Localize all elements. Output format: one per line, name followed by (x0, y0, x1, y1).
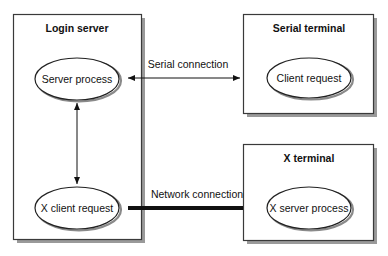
serial-terminal-title: Serial terminal (273, 22, 345, 34)
login-server-title: Login server (45, 22, 108, 34)
serial-connection-label: Serial connection (148, 58, 229, 70)
x-terminal-title: X terminal (284, 152, 335, 164)
client-request-node: Client request (267, 58, 353, 100)
network-diagram: Login server Serial terminal X terminal … (0, 0, 388, 256)
server-process-node: Server process (35, 58, 121, 102)
x-client-request-label: X client request (41, 202, 113, 214)
client-request-label: Client request (277, 72, 342, 84)
server-process-label: Server process (42, 73, 113, 85)
x-server-process-node: X server process (267, 187, 353, 231)
network-connection-label: Network connection (151, 188, 243, 200)
x-server-process-label: X server process (270, 202, 349, 214)
x-client-request-node: X client request (35, 187, 121, 231)
